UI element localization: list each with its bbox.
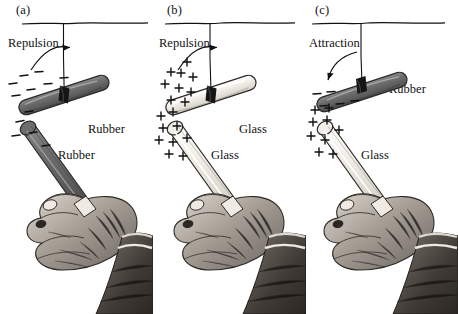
force-arrow-c [327,52,357,80]
suspension-string-a [64,24,65,93]
panel-c: (c) Attraction Rubber Glass [305,0,458,314]
handheld-rod-b [165,118,233,204]
force-arrow-b [178,45,217,70]
string-knot-a [59,86,70,104]
suspension-string-b [210,24,211,93]
ceiling-line-b [165,23,295,24]
panel-a-art [0,0,153,314]
string-knot-b [206,86,217,104]
ceiling-line-a [22,23,148,24]
panel-c-art [305,0,458,314]
hand-illustration-b [174,194,306,314]
panel-b-art [153,0,306,314]
ceiling-line-c [312,23,445,24]
suspension-string-c [361,24,362,85]
handheld-rod-c [315,118,383,204]
hand-illustration-c [324,194,458,314]
electrostatics-figure: (a) Repulsion Rubber Rubber [0,0,458,314]
handheld-rod-a [18,118,86,204]
hand-illustration-a [27,194,153,314]
panel-a: (a) Repulsion Rubber Rubber [0,0,153,314]
panel-b: (b) Repulsion Glass Glass [153,0,306,314]
